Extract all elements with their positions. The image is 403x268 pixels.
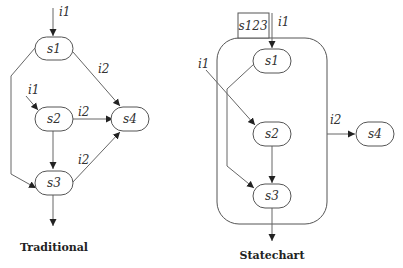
label-s1-s4: i2 (98, 62, 109, 76)
state-s2-label: s2 (265, 127, 279, 141)
state-s3-label: s3 (47, 176, 61, 190)
edge-entry-s2 (26, 96, 38, 110)
label-super-s4: i2 (330, 113, 341, 127)
label-entry-s2: i1 (28, 83, 39, 97)
statechart-diagram: s123 i1 i1 i2 s1 s2 s3 s4 Statechart (198, 13, 394, 262)
state-s1-label: s1 (265, 54, 279, 68)
caption-traditional: Traditional (20, 241, 88, 254)
label-s2-s4: i2 (78, 105, 89, 119)
label-entry-s1: i1 (278, 15, 289, 29)
state-s3-label: s3 (265, 189, 279, 203)
state-s4-label: s4 (368, 127, 382, 141)
traditional-diagram: i1 i2 i1 i2 i2 s1 s2 s4 s3 Traditional (11, 5, 149, 254)
label-entry-s2: i1 (198, 57, 209, 71)
label-entry-s1: i1 (59, 5, 70, 19)
edge-s1-s4 (73, 52, 120, 106)
state-s2-label: s2 (47, 112, 61, 126)
diagram-canvas: i1 i2 i1 i2 i2 s1 s2 s4 s3 Traditional (0, 0, 403, 268)
caption-statechart: Statechart (240, 249, 306, 262)
edge-s1-s3 (11, 48, 36, 188)
state-s4-label: s4 (123, 112, 137, 126)
label-s3-s4: i2 (78, 153, 89, 167)
state-s1-label: s1 (47, 42, 61, 56)
superstate-label: s123 (238, 19, 267, 33)
